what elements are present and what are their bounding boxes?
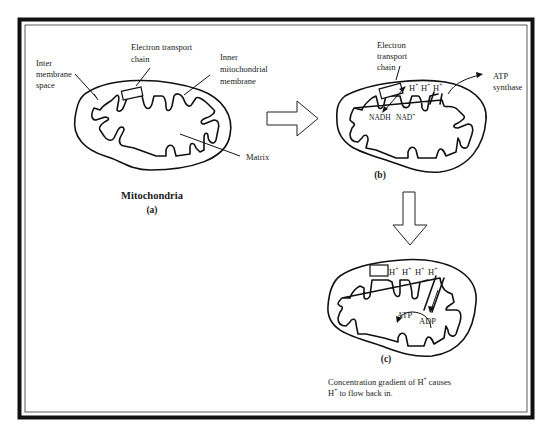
panel-a-title: Mitochondria [121, 190, 184, 201]
inner-membrane-a [92, 94, 219, 156]
leader-etc-a [136, 68, 150, 86]
panel-a: Inter membrane space Electron transport … [36, 42, 270, 216]
proton-label-b2: H+ [421, 82, 430, 93]
panel-b-caption: (b) [374, 170, 386, 181]
panel-c-description-line2: H+ to flow back in. [328, 387, 393, 398]
label-matrix: Matrix [246, 152, 270, 162]
leader-matrix [180, 134, 240, 156]
panel-c-description-line1: Concentration gradient of H+ causes [328, 376, 451, 387]
etc-box-c [370, 265, 388, 276]
proton-label-b3: H+ [433, 82, 442, 93]
label-nad: NAD+ [396, 112, 415, 122]
down-arrow-icon [393, 192, 427, 245]
panel-c: H+ H+ H+ H+ ATP ADP (c) Concentration gr… [328, 260, 476, 398]
label-atp-synthase: ATP synthase [493, 71, 523, 92]
right-arrow-icon [267, 101, 318, 136]
label-adp: ADP [419, 316, 436, 326]
panel-a-caption: (a) [146, 205, 157, 216]
etc-box-a [121, 87, 142, 100]
label-electron-transport-chain-b: Electron transport chain [377, 40, 409, 72]
label-atp: ATP [397, 310, 412, 320]
panel-c-caption: (c) [381, 354, 392, 365]
proton-label-b1: H+ [409, 82, 418, 93]
proton-label-c1: H+ [389, 266, 398, 277]
mitochondria-diagram: Inter membrane space Electron transport … [0, 0, 549, 433]
proton-label-c2: H+ [402, 266, 411, 277]
proton-label-c3: H+ [415, 266, 424, 277]
panel-b: Electron transport chain ATP synthase H+… [337, 40, 523, 181]
outer-membrane-a [75, 80, 231, 170]
label-inter-membrane-space: Inter membrane space [36, 58, 74, 90]
label-electron-transport-chain-a: Electron transport chain [131, 42, 194, 64]
inner-membrane-b [350, 94, 473, 158]
label-inner-mitochondrial-membrane: Inner mitochondrial membrane [220, 52, 270, 86]
label-nadh: NADH [369, 113, 391, 122]
diagram-frame [20, 20, 533, 418]
